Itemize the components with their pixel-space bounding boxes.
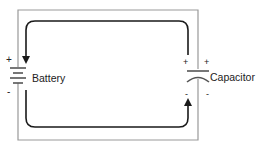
capacitor-label: Capacitor (210, 71, 255, 83)
capacitor-minus-right: - (206, 89, 209, 99)
battery-symbol (10, 68, 26, 83)
battery-minus-sign: - (7, 86, 10, 97)
capacitor-plus-right: + (204, 57, 209, 67)
battery-plus-sign: + (6, 54, 12, 65)
capacitor-minus-left: - (185, 89, 188, 99)
circuit-diagram: + - Battery + + - - Capacitor (0, 0, 265, 149)
battery-label: Battery (32, 72, 66, 84)
current-arrow-top (26, 21, 188, 60)
capacitor-plus-left: + (183, 57, 188, 67)
current-arrow-bottom (26, 90, 188, 127)
